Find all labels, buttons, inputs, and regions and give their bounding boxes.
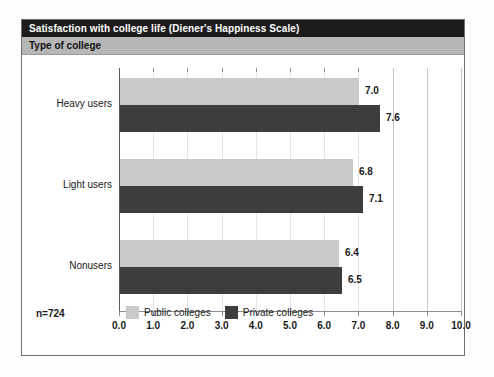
bar-value-label: 6.8 — [359, 166, 373, 177]
x-axis-top-tick — [324, 68, 325, 72]
chart-subtitle-bar: Type of college — [22, 37, 464, 55]
bar-public — [120, 240, 339, 267]
bar-value-label: 6.5 — [348, 274, 362, 285]
legend-item: Public colleges — [126, 306, 211, 319]
bar-value-label: 7.1 — [369, 193, 383, 204]
category-label: Nonusers — [22, 260, 112, 271]
bar-value-label: 7.0 — [365, 85, 379, 96]
plot-area: 7.07.66.87.16.46.5 — [119, 68, 461, 311]
x-axis-top-tick — [222, 68, 223, 72]
bar-value-label: 6.4 — [345, 247, 359, 258]
x-axis-top-tick — [290, 68, 291, 72]
chart-frame: Satisfaction with college life (Diener's… — [21, 19, 465, 356]
legend-item: Private colleges — [225, 306, 314, 319]
x-axis-top-tick — [358, 68, 359, 72]
legend-label: Private colleges — [243, 307, 314, 318]
x-axis-top-tick — [256, 68, 257, 72]
bar-private — [120, 186, 363, 213]
chart-figure: Satisfaction with college life (Diener's… — [0, 0, 494, 377]
chart-title-bar: Satisfaction with college life (Diener's… — [22, 20, 464, 37]
bar-public — [120, 159, 353, 186]
category-label: Light users — [22, 179, 112, 190]
gridline — [427, 68, 428, 311]
x-axis-top-tick — [153, 68, 154, 72]
bar-private — [120, 105, 380, 132]
legend-swatch-public — [126, 306, 139, 319]
sample-size-label: n=724 — [36, 308, 65, 319]
chart-legend: Public collegesPrivate colleges — [126, 306, 327, 319]
chart-footer: n=724 Public collegesPrivate colleges — [22, 302, 464, 330]
gridline — [461, 68, 462, 311]
legend-label: Public colleges — [144, 307, 211, 318]
bar-public — [120, 78, 359, 105]
chart-title: Satisfaction with college life (Diener's… — [22, 23, 299, 34]
bar-value-label: 7.6 — [386, 112, 400, 123]
legend-swatch-private — [225, 306, 238, 319]
gridline — [393, 68, 394, 311]
x-axis-top-tick — [187, 68, 188, 72]
chart-subtitle: Type of college — [22, 40, 101, 51]
bar-private — [120, 267, 342, 294]
category-label: Heavy users — [22, 98, 112, 109]
